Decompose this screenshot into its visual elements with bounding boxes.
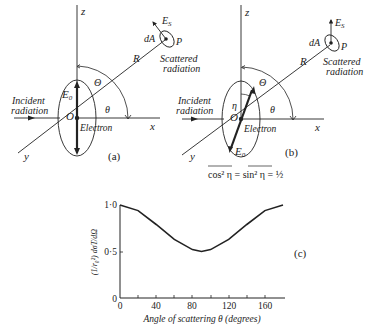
theta-label: θ (270, 104, 275, 115)
theta-arc (242, 67, 293, 119)
formula-mean-cos-sin: cos² η = sin² η = ½ (208, 169, 284, 180)
electron-dot (75, 116, 79, 120)
r-label: R (132, 52, 140, 64)
e0-label: E0 (234, 145, 246, 159)
electron-label: Electron (79, 123, 113, 133)
x-tick-160: 160 (258, 301, 273, 311)
chart-y-label: (1/r₀²) dσT/dΩ (90, 229, 99, 275)
x-tick-120: 120 (222, 301, 237, 311)
incident-arrow-icon (191, 117, 198, 122)
big-theta-label: Θ (259, 77, 266, 88)
y-tick-0-5: 0·5 (104, 247, 117, 257)
electron-label: Electron (243, 124, 277, 134)
incident-arrow-icon (28, 116, 35, 121)
r-label: R (299, 55, 307, 67)
e0-arrow-up-icon (74, 81, 80, 88)
big-theta-label: Θ (94, 77, 101, 88)
x-tick-80: 80 (187, 301, 197, 311)
x-axis-label: x (314, 121, 320, 133)
da-label: dA (144, 33, 156, 44)
es-label: ES (161, 15, 172, 28)
x-ticks (120, 252, 265, 298)
eta-label: η (232, 100, 237, 111)
panel-a-label: (a) (108, 150, 121, 163)
x-tick-0: 0 (118, 301, 123, 311)
e0-label: E0 (61, 88, 73, 102)
e0-arrow-down-icon (228, 146, 233, 153)
p-label: P (340, 41, 347, 52)
x-axis-label: x (149, 120, 155, 132)
panel-b: z x Incident radiation y R η E0 O Electr… (176, 5, 363, 180)
thomson-scattering-figure: z x Incident radiation y R E0 O Electron… (0, 0, 372, 331)
es-label: ES (334, 17, 345, 30)
da-label: dA (309, 37, 321, 48)
panel-c-label: (c) (294, 247, 307, 260)
y-axis-label: y (23, 150, 29, 162)
y-tick-1-0: 1·0 (104, 200, 117, 210)
origin-label: O (230, 111, 238, 123)
incident-label-2: radiation (11, 105, 48, 116)
panel-a: z x Incident radiation y R E0 O Electron… (11, 5, 200, 163)
y-axis-label: y (189, 150, 195, 162)
scattered-label-2: radiation (326, 66, 363, 77)
incident-label-2: radiation (176, 105, 213, 116)
panel-c-chart: 0 0·5 1·0 0 40 80 120 160 Angle of scatt… (90, 200, 307, 325)
z-axis-label: z (244, 6, 250, 18)
origin-label: O (66, 110, 74, 122)
electron-dot (239, 117, 243, 121)
e0-arrow-down-icon (74, 148, 80, 155)
p-label: P (175, 36, 182, 47)
z-axis-label: z (80, 5, 86, 17)
panel-b-label: (b) (285, 146, 298, 159)
scattered-label-2: radiation (163, 63, 200, 74)
theta-label: θ (105, 104, 110, 115)
eta-arc (241, 94, 250, 96)
y-tick-0: 0 (112, 294, 117, 304)
x-tick-40: 40 (151, 301, 161, 311)
cross-section-curve (120, 205, 283, 252)
chart-x-label: Angle of scattering θ (degrees) (142, 314, 260, 325)
